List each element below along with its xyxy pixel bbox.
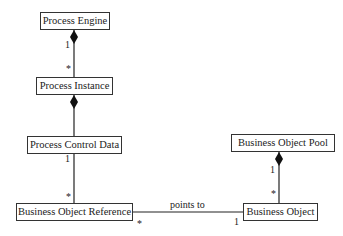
- multiplicity-label: 1: [270, 164, 275, 175]
- class-business-object-reference[interactable]: Business Object Reference: [16, 203, 133, 221]
- class-business-object-pool[interactable]: Business Object Pool: [231, 134, 335, 152]
- multiplicity-label: 1: [65, 153, 70, 164]
- composition-diamond-icon: [275, 152, 283, 166]
- multiplicity-label: *: [66, 191, 71, 202]
- multiplicity-label: 1: [234, 216, 239, 227]
- multiplicity-label: 1: [65, 39, 70, 50]
- composition-diamond-icon: [70, 30, 78, 44]
- composition-diamond-icon: [70, 95, 78, 109]
- class-process-instance[interactable]: Process Instance: [36, 77, 113, 95]
- association-label: points to: [170, 199, 205, 210]
- multiplicity-label: *: [137, 218, 142, 229]
- class-business-object[interactable]: Business Object: [243, 203, 318, 221]
- class-process-control-data[interactable]: Process Control Data: [27, 136, 122, 154]
- class-process-engine[interactable]: Process Engine: [40, 12, 110, 30]
- multiplicity-label: *: [66, 63, 71, 74]
- multiplicity-label: *: [271, 188, 276, 199]
